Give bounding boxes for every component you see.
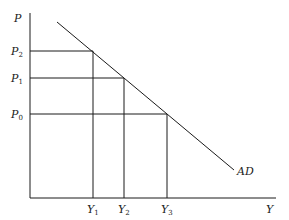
p1-label: P1 (10, 72, 23, 86)
y3-label: Y3 (161, 203, 173, 217)
p2-label: P2 (10, 45, 23, 59)
y1-label: Y1 (87, 203, 99, 217)
output-axis-label: Y (266, 203, 275, 216)
ad-diagram: P Y AD P2 P1 P0 Y1 Y2 Y3 (0, 0, 289, 220)
p0-label: P0 (10, 108, 23, 122)
price-axis-label: P (13, 12, 22, 25)
y2-label: Y2 (118, 203, 130, 217)
ad-curve (57, 22, 234, 170)
ad-curve-label: AD (236, 165, 254, 178)
